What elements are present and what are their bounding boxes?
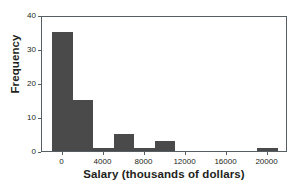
y-tick-label: 20 [27, 78, 36, 89]
x-tick-mark [103, 152, 104, 155]
x-tick-label: 20000 [255, 156, 277, 167]
x-tick-label: 16000 [214, 156, 236, 167]
y-tick-mark [38, 84, 41, 85]
x-tick-mark [226, 152, 227, 155]
x-axis-title: Salary (thousands of dollars) [41, 168, 287, 180]
histogram-bar [52, 32, 73, 151]
histogram-bar [155, 141, 176, 151]
x-tick-label: 8000 [135, 156, 153, 167]
y-tick-mark [38, 16, 41, 17]
histogram-bar [93, 148, 114, 151]
x-tick-mark [267, 152, 268, 155]
x-tick-label: 4000 [94, 156, 112, 167]
histogram-bar [73, 100, 94, 151]
y-axis-title: Frequency [9, 16, 21, 112]
histogram-bar [114, 134, 135, 151]
histogram-bars [42, 17, 286, 151]
x-tick-mark [144, 152, 145, 155]
histogram-bar [257, 148, 278, 151]
y-tick-label: 30 [27, 44, 36, 55]
x-tick-mark [185, 152, 186, 155]
y-tick-mark [38, 118, 41, 119]
plot-area [41, 16, 287, 152]
x-tick-mark [62, 152, 63, 155]
y-tick-label: 40 [27, 10, 36, 21]
x-tick-label: 0 [59, 156, 63, 167]
y-tick-mark [38, 50, 41, 51]
y-tick-label: 10 [27, 112, 36, 123]
histogram-figure: 010203040 040008000120001600020000 Salar… [0, 0, 299, 192]
x-tick-label: 12000 [173, 156, 195, 167]
histogram-bar [134, 148, 155, 151]
